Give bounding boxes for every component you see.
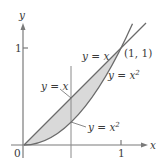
y-axis-arrow-icon [21, 23, 26, 30]
lower-parabola-label: y = x2 [87, 121, 120, 133]
upper-parabola-label: y = x2 [107, 69, 140, 81]
upper-parabola-label-base: y = x [107, 69, 135, 81]
x-axis-arrow-icon [141, 143, 148, 148]
origin-label: 0 [14, 147, 21, 159]
lower-parabola-label-base: y = x [87, 121, 115, 133]
x-tick-label: 1 [118, 147, 125, 159]
upper-parabola-label-exp: 2 [134, 69, 140, 77]
y-tick-label: 1 [15, 42, 22, 54]
lower-parabola-label-exp: 2 [114, 121, 120, 129]
x-axis-label: x [150, 139, 156, 151]
leader-line-y-equals-x-squared [71, 122, 86, 127]
y-axis-label: y [18, 9, 26, 21]
intersection-label: (1, 1) [124, 47, 152, 59]
upper-line-label: y = x [81, 50, 109, 62]
lower-line-label: y = x [40, 80, 68, 92]
area-between-curves-diagram: y x 0 1 1 (1, 1) y = x y = x2 y = x y = … [0, 0, 167, 167]
